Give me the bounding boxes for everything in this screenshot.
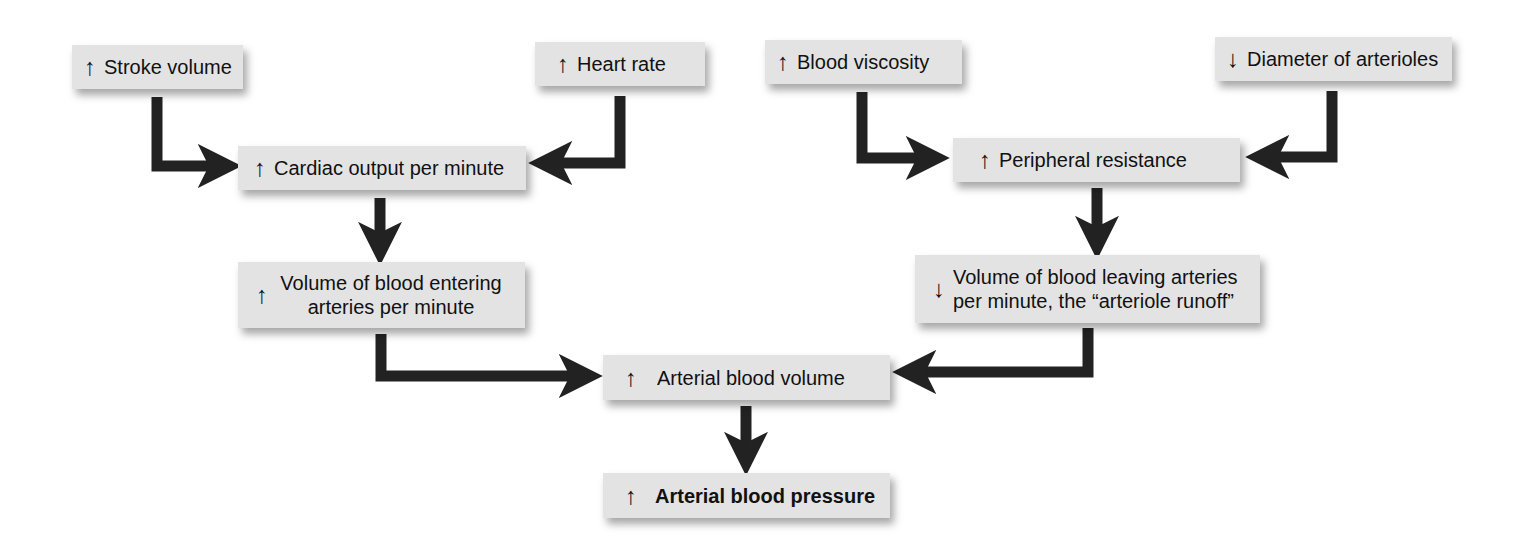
up-arrow-icon: ↑ (625, 484, 637, 508)
node-label: Volume of blood leaving arteries per min… (953, 265, 1243, 313)
node-label: Cardiac output per minute (274, 156, 504, 180)
node-volume-entering: ↑ Volume of blood entering arteries per … (238, 262, 525, 328)
node-label: Diameter of arterioles (1247, 47, 1438, 71)
edge-heart-rate-to-cardiac-output (548, 96, 620, 163)
node-peripheral-resistance: ↑ Peripheral resistance (953, 138, 1240, 182)
node-label: Volume of blood entering arteries per mi… (276, 271, 506, 319)
node-label: Arterial blood pressure (655, 484, 875, 508)
edge-diameter-to-peripheral-resistance (1265, 91, 1332, 157)
up-arrow-icon: ↑ (777, 50, 789, 74)
node-cardiac-output: ↑ Cardiac output per minute (238, 146, 526, 190)
edge-stroke-volume-to-cardiac-output (157, 97, 222, 166)
edge-volume-leaving-to-arterial-volume (912, 328, 1088, 372)
down-arrow-icon: ↓ (1227, 47, 1239, 71)
node-label: Blood viscosity (797, 50, 929, 74)
node-heart-rate: ↑ Heart rate (535, 42, 705, 86)
node-stroke-volume: ↑ Stroke volume (72, 45, 243, 89)
node-label: Arterial blood volume (657, 366, 845, 390)
down-arrow-icon: ↓ (933, 277, 945, 301)
up-arrow-icon: ↑ (557, 52, 569, 76)
edge-volume-entering-to-arterial-volume (381, 334, 583, 376)
up-arrow-icon: ↑ (254, 156, 266, 180)
node-label: Heart rate (577, 52, 666, 76)
node-volume-leaving: ↓ Volume of blood leaving arteries per m… (915, 255, 1260, 323)
node-label: Peripheral resistance (999, 148, 1187, 172)
up-arrow-icon: ↑ (84, 55, 96, 79)
node-label: Stroke volume (104, 55, 232, 79)
node-arterial-blood-pressure: ↑ Arterial blood pressure (603, 473, 890, 518)
node-blood-viscosity: ↑ Blood viscosity (765, 40, 962, 84)
node-diameter-of-arterioles: ↓ Diameter of arterioles (1215, 37, 1452, 81)
node-arterial-blood-volume: ↑ Arterial blood volume (603, 355, 890, 400)
up-arrow-icon: ↑ (256, 283, 268, 307)
edge-blood-viscosity-to-peripheral-resistance (862, 92, 930, 158)
up-arrow-icon: ↑ (625, 366, 637, 390)
up-arrow-icon: ↑ (979, 148, 991, 172)
